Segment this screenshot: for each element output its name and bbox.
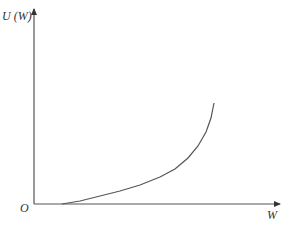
y-axis-label: U (W) [2, 9, 32, 23]
x-axis-label: W [267, 208, 278, 222]
utility-curve [62, 103, 214, 204]
chart-canvas: U (W) W O [0, 0, 287, 230]
origin-label: O [20, 201, 29, 215]
